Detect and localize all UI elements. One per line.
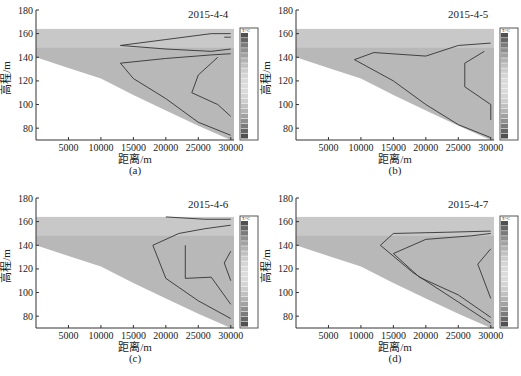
y-tick-label: 140 [278,240,293,251]
panel-label: (b) [380,164,410,176]
legend-title: T/°C [242,28,250,33]
x-tick-label: 25000 [446,330,471,341]
y-tick-label: 180 [278,5,293,16]
y-tick-label: 80 [23,123,33,134]
x-tick-label: 30000 [218,330,243,341]
panel-date: 2015-4-7 [448,198,488,210]
y-tick-label: 160 [278,216,293,227]
y-tick-label: 120 [18,263,33,274]
x-tick-label: 25000 [186,142,211,153]
y-tick-label: 180 [18,5,33,16]
panel-date: 2015-4-4 [188,8,228,20]
x-tick-label: 5000 [318,330,338,341]
y-axis-label: 高程/m [257,241,273,291]
y-tick-label: 180 [278,193,293,204]
legend-title: T/°C [502,216,510,221]
panel-label: (a) [120,164,150,176]
x-tick-label: 5000 [318,142,338,153]
y-tick-label: 140 [278,52,293,63]
y-tick-label: 120 [278,263,293,274]
panel-c: 8010012014016018050001000015000200002500… [0,188,260,376]
y-tick-label: 140 [18,52,33,63]
x-tick-label: 30000 [478,330,503,341]
y-tick-label: 140 [18,240,33,251]
panel-label: (d) [380,352,410,364]
y-tick-label: 80 [283,123,293,134]
y-axis-label: 高程/m [0,53,13,103]
y-axis-label: 高程/m [257,53,273,103]
y-tick-label: 100 [18,287,33,298]
panel-label: (c) [120,352,150,364]
x-tick-label: 25000 [186,330,211,341]
y-tick-label: 120 [278,75,293,86]
panel-b: 8010012014016018050001000015000200002500… [260,0,520,188]
y-tick-label: 80 [283,311,293,322]
panel-a: 8010012014016018050001000015000200002500… [0,0,260,188]
y-tick-label: 160 [18,28,33,39]
y-tick-label: 180 [18,193,33,204]
panel-d: 8010012014016018050001000015000200002500… [260,188,520,376]
x-tick-label: 25000 [446,142,471,153]
surface-layer [36,217,234,236]
surface-layer [36,29,234,48]
x-tick-label: 30000 [478,142,503,153]
panel-date: 2015-4-6 [188,198,228,210]
y-tick-label: 160 [278,28,293,39]
x-tick-label: 5000 [58,330,78,341]
y-tick-label: 100 [278,287,293,298]
legend-title: T/°C [502,28,510,33]
panel-date: 2015-4-5 [448,8,488,20]
x-tick-label: 5000 [58,142,78,153]
y-tick-label: 80 [23,311,33,322]
y-axis-label: 高程/m [0,241,13,291]
y-tick-label: 100 [18,99,33,110]
legend-title: T/°C [242,216,250,221]
x-tick-label: 30000 [218,142,243,153]
y-tick-label: 120 [18,75,33,86]
y-tick-label: 100 [278,99,293,110]
y-tick-label: 160 [18,216,33,227]
